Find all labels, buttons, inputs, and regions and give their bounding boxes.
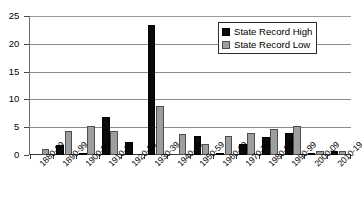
legend-item-low: State Record Low: [222, 38, 312, 51]
x-axis-label: 1900-09: [84, 140, 112, 168]
legend-swatch-high-icon: [222, 28, 230, 36]
chart-legend: State Record High State Record Low: [218, 22, 317, 54]
legend-item-high: State Record High: [222, 25, 312, 38]
legend-swatch-low-icon: [222, 41, 230, 49]
legend-label-high: State Record High: [234, 27, 312, 37]
x-axis-label: 1970-79: [244, 140, 272, 168]
legend-label-low: State Record Low: [234, 40, 310, 50]
